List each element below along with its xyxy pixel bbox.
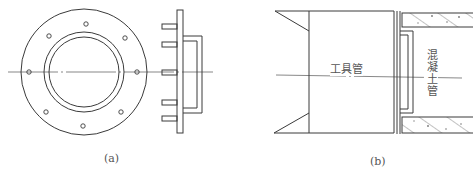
panel-a-front-view (8, 9, 213, 135)
stud (162, 70, 177, 75)
stud (162, 42, 177, 47)
panel-b-section (274, 11, 473, 134)
stud (162, 100, 177, 105)
cutting-edge-top (275, 11, 309, 31)
bolt-hole (47, 34, 51, 38)
bolt-hole (84, 22, 88, 26)
stud (162, 116, 177, 121)
bracket-inner (183, 41, 197, 108)
bolt-hole (123, 36, 127, 40)
cutting-edge-bottom (274, 113, 309, 133)
panel-a-label: (a) (104, 152, 119, 165)
stud (162, 24, 177, 29)
concrete-wall-bottom (402, 117, 473, 133)
spigot-inner (400, 35, 408, 109)
bolt-hole (81, 124, 85, 128)
concrete-wall-top (402, 13, 473, 27)
spigot-outer (400, 31, 413, 113)
panel-a-side-view (162, 10, 202, 133)
bolt-hole (119, 110, 123, 114)
bolt-hole (44, 110, 48, 114)
concrete-pipe-label: 混凝土管 (426, 50, 438, 98)
flange-plate (177, 10, 183, 133)
panel-b-label: (b) (370, 155, 386, 168)
bracket-outer (183, 36, 202, 113)
technical-drawing (0, 0, 473, 174)
tool-pipe-label: 工具管 (330, 60, 363, 76)
